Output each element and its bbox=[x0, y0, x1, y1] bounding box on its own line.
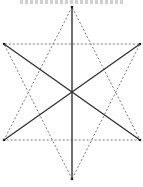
vertex-upper-right bbox=[139, 43, 142, 46]
cropped-caption-fragment bbox=[20, 0, 125, 4]
vertex-lower-left bbox=[3, 139, 6, 142]
vertex-upper-left bbox=[3, 43, 6, 46]
star-diagram bbox=[0, 0, 143, 187]
vertex-top bbox=[71, 6, 74, 9]
hexagram-figure bbox=[0, 0, 143, 187]
vertex-lower-right bbox=[139, 139, 142, 142]
vertex-bottom bbox=[71, 178, 74, 181]
